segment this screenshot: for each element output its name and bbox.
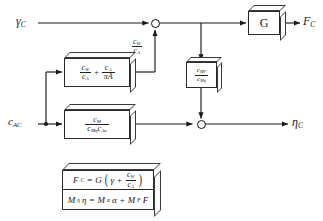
equation-moment: Mηη = Mαα + MFF [63, 190, 153, 209]
block-gain-g[interactable]: G [248, 11, 280, 35]
equation-panel-body: FC = G ( γ + cW cA ) Mηη = Mαα [62, 170, 154, 210]
box-side-face [217, 62, 222, 93]
block-gain-g-label: G [248, 11, 280, 35]
equation-panel: FC = G ( γ + cW cA ) Mηη = Mαα [62, 170, 154, 210]
summing-junction-bottom [197, 120, 206, 129]
box-top-face [62, 163, 161, 170]
block-moment-ratio[interactable]: cM cMηcAα [64, 110, 130, 139]
output-label-f-c: FC [303, 14, 315, 29]
block-feedback-ratio-expression: cMF cMη [186, 62, 217, 88]
block-diagram-canvas: γC cAC FC ηC cW cA G cW [0, 0, 323, 221]
box-side-face [130, 110, 136, 145]
equation-fc: FC = G ( γ + cW cA ) [63, 171, 153, 190]
input-label-gamma-c: γC [16, 14, 26, 29]
output-label-eta-c: ηC [292, 115, 303, 130]
block-moment-ratio-expression: cM cMηcAα [64, 110, 130, 139]
block-aero-sum[interactable]: cW cA + cA πA [64, 58, 130, 87]
input-label-c-ac: cAC [8, 115, 22, 128]
box-side-face [154, 170, 161, 217]
summing-junction-top [151, 19, 160, 28]
box-side-face [130, 58, 136, 93]
branch-dot-cac [44, 122, 48, 126]
block-aero-sum-expression: cW cA + cA πA [64, 58, 130, 87]
block-feedback-ratio[interactable]: cMF cMη [186, 62, 217, 88]
